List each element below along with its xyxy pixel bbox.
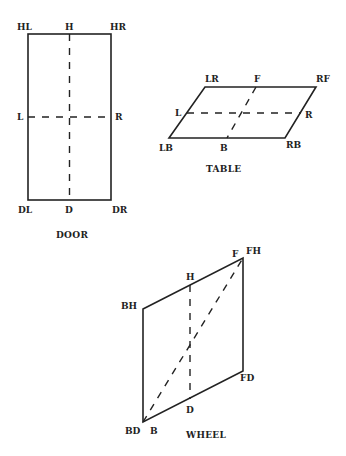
wheel-figure: F FH H BH FD D BD B WHEEL [121, 246, 261, 440]
wheel-diagonal-axis [143, 258, 243, 422]
wheel-caption: WHEEL [185, 430, 227, 440]
wheel-label-fh: FH [246, 246, 261, 256]
door-label-r: R [115, 112, 123, 122]
wheel-label-bd: BD [125, 426, 141, 436]
table-label-l: L [175, 108, 182, 118]
wheel-label-fd: FD [240, 373, 254, 383]
door-label-hl: HL [17, 22, 33, 32]
wheel-label-d: D [186, 405, 194, 415]
table-figure: LR F RF L R LB B RB TABLE [159, 74, 330, 174]
table-label-rf: RF [316, 74, 330, 84]
door-label-dl: DL [18, 205, 33, 215]
door-label-hr: HR [110, 22, 127, 32]
table-label-rb: RB [286, 140, 301, 150]
table-label-b: B [220, 143, 228, 153]
wheel-label-bh: BH [121, 301, 138, 311]
door-label-l: L [17, 112, 24, 122]
table-label-lr: LR [205, 74, 219, 84]
door-caption: DOOR [56, 230, 88, 240]
orientation-diagram: HL H HR L R DL D DR DOOR LR F RF L R LB … [0, 0, 346, 456]
table-label-r: R [305, 110, 313, 120]
table-label-f: F [254, 74, 261, 84]
door-label-d: D [65, 205, 73, 215]
door-figure: HL H HR L R DL D DR DOOR [17, 22, 128, 240]
table-label-lb: LB [159, 143, 173, 153]
door-label-dr: DR [112, 205, 128, 215]
wheel-label-b: B [150, 426, 158, 436]
wheel-label-h: H [186, 272, 195, 282]
wheel-label-f: F [232, 249, 239, 259]
door-label-h: H [65, 22, 74, 32]
table-caption: TABLE [206, 164, 241, 174]
